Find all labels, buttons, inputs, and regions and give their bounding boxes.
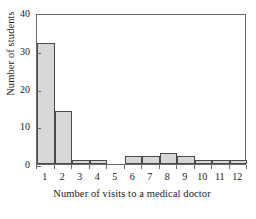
x-axis-tick-marks xyxy=(36,165,246,170)
histogram-bar xyxy=(177,156,195,164)
x-axis-title: Number of visits to a medical doctor xyxy=(18,188,246,199)
x-axis-tick-mark xyxy=(36,165,37,169)
x-axis-tick-mark xyxy=(89,165,90,169)
x-axis-tick-labels: 123456789101112 xyxy=(36,171,246,185)
histogram-bar xyxy=(142,156,160,164)
histogram-bar xyxy=(195,160,213,164)
histogram-bar xyxy=(72,160,90,164)
histogram-bar xyxy=(230,160,248,164)
histogram-bar xyxy=(55,111,73,164)
y-axis-tick-label: 40 xyxy=(12,9,30,19)
y-axis-tick-label: 0 xyxy=(12,160,30,170)
x-axis-tick-mark xyxy=(246,165,247,169)
histogram-bar xyxy=(125,156,143,164)
histogram-bar xyxy=(212,160,230,164)
histogram-bar xyxy=(160,153,178,164)
plot-area xyxy=(36,14,246,165)
histogram-bar xyxy=(90,160,108,164)
y-axis-tick-mark xyxy=(37,128,41,129)
x-axis-tick-mark xyxy=(71,165,72,169)
x-axis-tick-mark xyxy=(211,165,212,169)
y-axis-tick-label: 10 xyxy=(12,122,30,132)
y-axis-tick-label: 30 xyxy=(12,47,30,57)
x-axis-tick-mark xyxy=(141,165,142,169)
y-axis-tick-labels: 010203040 xyxy=(12,0,30,219)
x-axis-tick-mark xyxy=(124,165,125,169)
y-axis-tick-mark xyxy=(37,53,41,54)
histogram-chart: Number of students 010203040 12345678910… xyxy=(0,0,256,219)
x-axis-tick-mark xyxy=(194,165,195,169)
x-axis-tick-mark xyxy=(229,165,230,169)
x-axis-tick-label: 12 xyxy=(226,171,248,183)
y-axis-tick-label: 20 xyxy=(12,85,30,95)
bars-layer xyxy=(37,15,245,164)
x-axis-tick-mark xyxy=(176,165,177,169)
x-axis-tick-mark xyxy=(106,165,107,169)
x-axis-tick-mark xyxy=(54,165,55,169)
histogram-bar xyxy=(37,43,55,164)
y-axis-tick-mark xyxy=(37,91,41,92)
x-axis-tick-mark xyxy=(159,165,160,169)
